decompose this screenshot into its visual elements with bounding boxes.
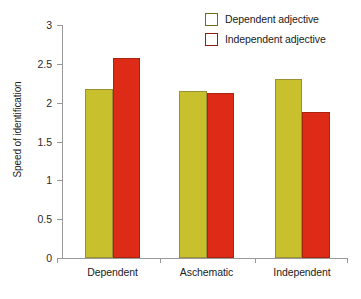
bar-independent-adjective — [113, 58, 141, 258]
x-tick-mark — [255, 258, 256, 263]
y-tick-mark — [57, 219, 62, 220]
legend-item-dependent-adjective: Dependent adjective — [205, 10, 357, 28]
x-tick-mark — [160, 258, 161, 263]
y-tick-label: 0.5 — [26, 213, 52, 225]
y-tick-mark — [57, 142, 62, 143]
y-tick-label: 3 — [26, 19, 52, 31]
y-tick-mark — [57, 64, 62, 65]
chart-legend: Dependent adjective Independent adjectiv… — [205, 10, 357, 50]
y-tick-mark — [57, 25, 62, 26]
x-category-label: Aschematic — [180, 266, 233, 278]
y-tick-mark — [57, 103, 62, 104]
y-tick-mark — [57, 180, 62, 181]
x-category-label: Independent — [273, 266, 330, 278]
bar-dependent-adjective — [85, 89, 113, 258]
legend-swatch-icon — [205, 33, 218, 46]
x-tick-mark — [57, 258, 58, 263]
x-category-label: Dependent — [87, 266, 137, 278]
legend-label: Dependent adjective — [225, 13, 319, 26]
x-axis-line — [57, 258, 347, 259]
y-tick-label: 1.5 — [26, 136, 52, 148]
legend-swatch-icon — [205, 13, 218, 26]
y-axis-title: Speed of identification — [6, 0, 28, 258]
y-tick-label: 2 — [26, 97, 52, 109]
bar-dependent-adjective — [179, 91, 207, 258]
bar-chart: Dependent adjective Independent adjectiv… — [0, 0, 361, 299]
legend-label: Independent adjective — [225, 33, 326, 46]
y-axis-line — [62, 25, 63, 259]
y-tick-label: 2.5 — [26, 58, 52, 70]
legend-item-independent-adjective: Independent adjective — [205, 30, 357, 48]
bar-independent-adjective — [207, 93, 235, 258]
x-tick-mark — [347, 258, 348, 263]
y-tick-label: 0 — [26, 252, 52, 264]
bar-independent-adjective — [302, 112, 330, 258]
y-axis-title-text: Speed of identification — [12, 81, 23, 177]
y-tick-label: 1 — [26, 174, 52, 186]
bar-dependent-adjective — [275, 79, 303, 258]
